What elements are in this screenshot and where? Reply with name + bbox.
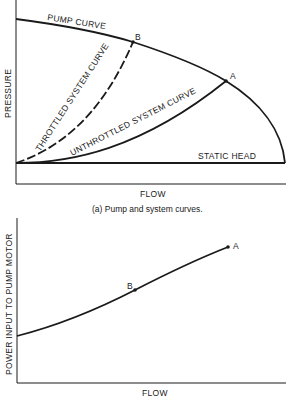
- point-a-marker: [224, 79, 228, 83]
- power-point-b-label: B: [127, 281, 133, 291]
- static-head-label: STATIC HEAD: [198, 151, 256, 161]
- power-point-a-label: A: [233, 241, 239, 251]
- pump-system-diagram: B A PUMP CURVE THROTTLED SYSTEM CURVE UN…: [0, 0, 292, 402]
- power-curve: [17, 247, 228, 336]
- top-x-axis-label: FLOW: [140, 189, 166, 199]
- top-chart: B A PUMP CURVE THROTTLED SYSTEM CURVE UN…: [3, 0, 286, 199]
- point-b-label: B: [135, 32, 141, 42]
- top-y-axis-label: PRESSURE: [3, 69, 13, 118]
- pump-curve: [16, 19, 285, 163]
- figure-caption: (a) Pump and system curves.: [92, 204, 203, 214]
- bottom-x-axis-label: FLOW: [142, 388, 168, 398]
- bottom-chart: B A POWER INPUT TO PUMP MOTOR FLOW: [4, 218, 286, 398]
- power-point-a-marker: [226, 245, 230, 249]
- bottom-y-axis-label: POWER INPUT TO PUMP MOTOR: [4, 233, 14, 375]
- power-point-b-marker: [133, 288, 137, 292]
- unthrottled-curve-label: UNTHROTTLED SYSTEM CURVE: [68, 85, 197, 157]
- point-a-label: A: [230, 71, 236, 81]
